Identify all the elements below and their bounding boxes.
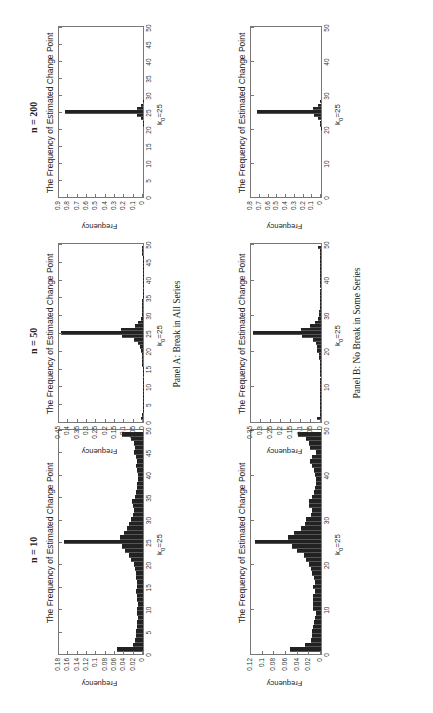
histogram-bar xyxy=(320,253,321,257)
panel-b-caption: Panel B: No Break in Some Series xyxy=(352,223,362,443)
histogram-bar xyxy=(311,567,322,571)
y-axis-label: Frequency xyxy=(70,222,130,231)
plot-area xyxy=(58,26,144,198)
x-tick-mark xyxy=(251,197,254,198)
x-tick-mark xyxy=(59,163,62,164)
histogram-bar xyxy=(320,306,321,310)
histogram-bar xyxy=(134,562,143,566)
histogram-bar xyxy=(320,406,321,410)
y-tick-label: 0.05 xyxy=(129,426,136,450)
x-tick-mark xyxy=(59,542,62,543)
x-tick-label: 0 xyxy=(323,190,330,206)
histogram-bar xyxy=(142,310,143,314)
x-tick-mark xyxy=(251,27,254,28)
histogram-bar xyxy=(138,321,143,325)
x-tick-mark xyxy=(59,112,62,113)
histogram-bar xyxy=(320,388,321,392)
histogram-bar xyxy=(141,317,143,321)
x-tick-label: 25 xyxy=(145,105,152,121)
x-axis-label: k0=25 xyxy=(155,534,166,555)
histogram-bar xyxy=(311,513,322,517)
x-axis-label: k0=25 xyxy=(333,534,344,555)
histogram-bar xyxy=(310,459,321,463)
histogram-bar xyxy=(314,468,321,472)
y-tick-mark xyxy=(133,651,134,654)
x-tick-mark xyxy=(59,129,62,130)
histogram-bar xyxy=(320,303,321,307)
histogram-bar xyxy=(253,331,321,335)
chart-title: The Frequency of Estimated Change Point xyxy=(237,431,247,655)
histogram-bar xyxy=(320,367,321,371)
x-tick-mark xyxy=(59,197,62,198)
x-tick-mark xyxy=(251,280,254,281)
histogram-bar xyxy=(320,360,321,364)
y-tick-mark xyxy=(86,651,87,654)
y-tick-mark xyxy=(310,419,311,422)
x-axis-label: k0=25 xyxy=(155,325,166,346)
histogram-bar xyxy=(120,535,143,539)
histogram-bar xyxy=(136,629,143,633)
histogram-bar xyxy=(142,253,143,257)
x-tick-mark xyxy=(59,333,62,334)
histogram-bar xyxy=(316,450,321,454)
y-tick-mark xyxy=(86,419,87,422)
x-tick-mark xyxy=(251,244,254,245)
y-tick-label: 0.1 xyxy=(129,201,136,225)
x-tick-mark xyxy=(59,61,62,62)
histogram-bar xyxy=(290,647,321,651)
histogram-bar xyxy=(320,363,321,367)
x-tick-label: 15 xyxy=(145,580,152,596)
histogram-bar xyxy=(315,473,321,477)
x-tick-label: 0 xyxy=(323,647,330,663)
plot-area xyxy=(250,26,322,198)
x-tick-label: 20 xyxy=(323,122,330,138)
plot-area xyxy=(250,429,322,655)
x-tick-label: 15 xyxy=(145,362,152,378)
histogram-bar xyxy=(142,360,143,364)
histogram-bar xyxy=(135,324,143,328)
x-tick-label: 35 xyxy=(145,290,152,306)
y-tick-mark xyxy=(297,651,298,654)
y-tick-mark xyxy=(276,194,277,197)
histogram-bar xyxy=(61,331,143,335)
histogram-bar xyxy=(320,256,321,260)
y-tick-mark xyxy=(262,651,263,654)
y-tick-mark xyxy=(77,194,78,197)
x-tick-label: 10 xyxy=(145,379,152,395)
histogram-bar xyxy=(301,328,321,332)
x-tick-mark xyxy=(59,351,62,352)
histogram-bar xyxy=(138,616,143,620)
x-tick-mark xyxy=(59,654,62,655)
histogram-bar xyxy=(320,271,321,275)
histogram-bar xyxy=(288,535,321,539)
panel-a-caption: Panel A: Break in All Series xyxy=(172,245,182,423)
histogram-bar xyxy=(315,589,321,593)
x-tick-label: 40 xyxy=(145,468,152,484)
y-tick-mark xyxy=(294,194,295,197)
y-tick-mark xyxy=(268,194,269,197)
histogram-bar xyxy=(137,107,143,110)
x-tick-mark xyxy=(59,587,62,588)
y-tick-mark xyxy=(114,194,115,197)
histogram-bar xyxy=(314,114,321,117)
y-axis-label: Frequency xyxy=(255,447,315,456)
histogram-bar xyxy=(138,473,143,477)
x-tick-mark xyxy=(59,475,62,476)
x-tick-mark xyxy=(59,262,62,263)
x-tick-label: 50 xyxy=(323,237,330,253)
y-tick-mark xyxy=(270,419,271,422)
y-tick-label: 0.35 xyxy=(246,426,253,450)
histogram-bar xyxy=(137,598,143,602)
x-tick-mark xyxy=(59,497,62,498)
y-tick-mark xyxy=(311,194,312,197)
histogram-bar xyxy=(312,634,321,638)
x-tick-mark xyxy=(251,315,254,316)
x-tick-mark xyxy=(251,386,254,387)
x-tick-mark xyxy=(251,351,254,352)
y-tick-label: 0 xyxy=(138,201,145,225)
histogram-bar xyxy=(137,620,143,624)
y-tick-mark xyxy=(105,194,106,197)
y-tick-label: 0.12 xyxy=(246,658,253,682)
x-tick-mark xyxy=(59,297,62,298)
histogram-bar xyxy=(136,464,143,468)
